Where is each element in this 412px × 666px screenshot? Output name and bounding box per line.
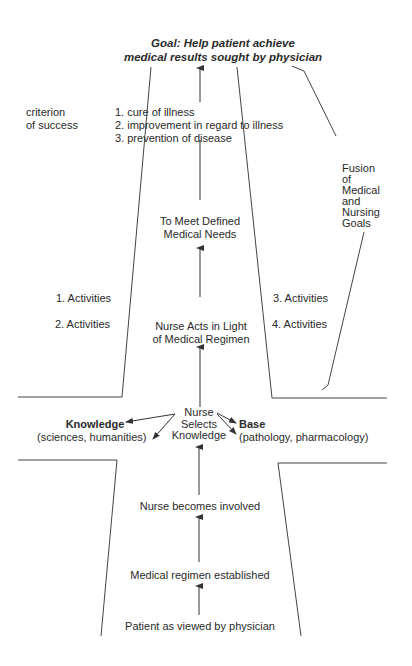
knowledge-detail: (sciences, humanities) bbox=[37, 431, 152, 444]
regimen-established-node: Medical regimen established bbox=[110, 569, 290, 582]
criterion-label: criterion of success bbox=[26, 106, 78, 132]
activity-1: 1. Activities bbox=[56, 292, 111, 305]
goal-line-2: medical results sought by physician bbox=[105, 50, 341, 64]
success-item-3: 3. prevention of disease bbox=[115, 132, 283, 145]
lower-funnel-right-edge bbox=[278, 463, 301, 636]
success-item-2: 2. improvement in regard to illness bbox=[115, 119, 283, 132]
patient-viewed-node: Patient as viewed by physician bbox=[110, 620, 290, 633]
success-list: 1. cure of illness 2. improvement in reg… bbox=[115, 106, 283, 145]
base-detail: (pathology, pharmacology) bbox=[239, 431, 368, 444]
meet-needs-node: To Meet Defined Medical Needs bbox=[130, 215, 270, 241]
lower-funnel-left-edge bbox=[101, 460, 117, 636]
activity-2: 2. Activities bbox=[55, 318, 110, 331]
nurse-selects-node: Nurse Selects Knowledge bbox=[164, 407, 234, 442]
success-item-1: 1. cure of illness bbox=[115, 106, 283, 119]
fusion-label: Fusion of Medical and Nursing Goals bbox=[342, 163, 380, 229]
knowledge-title: Knowledge bbox=[38, 418, 152, 431]
nurse-involved-node: Nurse becomes involved bbox=[120, 500, 280, 513]
fusion-bracket-bottom bbox=[322, 232, 364, 390]
nurse-acts-node: Nurse Acts in Light of Medical Regimen bbox=[140, 320, 262, 346]
fusion-bracket-top bbox=[292, 66, 336, 136]
activity-4: 4. Activities bbox=[272, 318, 327, 331]
goal-text: Goal: Help patient achieve medical resul… bbox=[105, 36, 341, 64]
goal-line-1: Goal: Help patient achieve bbox=[105, 36, 341, 50]
activity-3: 3. Activities bbox=[273, 292, 328, 305]
base-title: Base bbox=[239, 418, 368, 431]
base-node: Base (pathology, pharmacology) bbox=[239, 418, 368, 444]
knowledge-node: Knowledge (sciences, humanities) bbox=[38, 418, 152, 444]
